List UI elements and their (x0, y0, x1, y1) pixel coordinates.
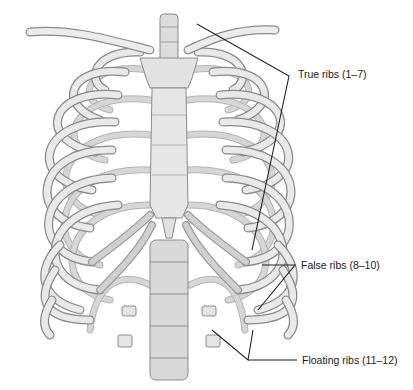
rib-cage-illustration (0, 0, 413, 390)
label-true-ribs: True ribs (1–7) (298, 68, 366, 80)
sternum (140, 58, 198, 238)
anterior-ribs-left (45, 52, 140, 335)
label-false-ribs: False ribs (8–10) (301, 259, 380, 271)
label-floating-ribs: Floating ribs (11–12) (302, 354, 398, 366)
anterior-ribs-right (198, 52, 293, 335)
